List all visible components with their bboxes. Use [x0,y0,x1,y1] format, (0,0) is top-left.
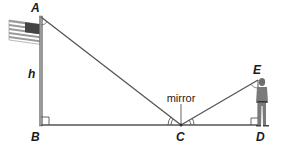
right-angle-d [251,118,258,125]
angle-arc-c-right-inner [189,120,191,125]
mirror-point [180,124,183,127]
flag-icon [9,20,40,44]
label-e: E [253,63,262,77]
label-h: h [28,67,35,81]
angle-arc-c-left [168,117,171,125]
angle-arc-c-right [192,118,194,125]
label-a: A [30,1,40,15]
angle-arc-e [251,84,258,88]
label-d: D [256,130,265,144]
flagpole [40,16,43,126]
label-b: B [31,130,40,144]
segment-ac [41,17,181,125]
angle-arc-c-left-inner [171,119,173,125]
mirror-height-diagram: A B C D E h mirror [0,0,288,148]
label-c: C [176,130,185,144]
label-mirror: mirror [167,92,196,104]
